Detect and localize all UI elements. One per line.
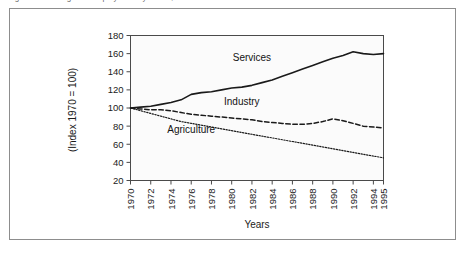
x-axis-tick-label: 1970 xyxy=(125,189,136,210)
y-axis-tick-label: 140 xyxy=(108,66,124,77)
x-axis-tick-label: 1984 xyxy=(267,189,278,210)
x-axis-tick-label: 1995 xyxy=(378,189,389,210)
line-chart: 20406080100120140160180(Index 1970 = 100… xyxy=(0,0,466,253)
figure-container: Figure 2.3 Changes in employment by sect… xyxy=(0,0,466,253)
series-label-industry: Industry xyxy=(224,96,260,107)
series-label-services: Services xyxy=(233,52,271,63)
y-axis-tick-label: 120 xyxy=(108,84,124,95)
x-axis-tick-label: 1976 xyxy=(186,189,197,210)
y-axis-tick-label: 40 xyxy=(113,157,124,168)
y-axis-tick-label: 60 xyxy=(113,139,124,150)
x-axis-tick-label: 1980 xyxy=(226,189,237,210)
y-axis-title: (Index 1970 = 100) xyxy=(67,68,78,152)
y-axis-tick-label: 20 xyxy=(113,175,124,186)
x-axis-tick-label: 1978 xyxy=(206,189,217,210)
y-axis-tick-label: 160 xyxy=(108,48,124,59)
y-axis-tick-label: 80 xyxy=(113,121,124,132)
x-axis-tick-label: 1982 xyxy=(247,189,258,210)
x-axis-title: Years xyxy=(244,219,269,230)
x-axis-tick-label: 1990 xyxy=(328,189,339,210)
x-axis-tick-label: 1988 xyxy=(307,189,318,210)
x-axis-tick-label: 1972 xyxy=(145,189,156,210)
y-axis-tick-label: 180 xyxy=(108,30,124,41)
series-label-agriculture: Agriculture xyxy=(167,124,215,135)
x-axis-tick-label: 1974 xyxy=(166,189,177,210)
x-axis-tick-label: 1986 xyxy=(287,189,298,210)
x-axis-tick-label: 1992 xyxy=(348,189,359,210)
y-axis-tick-label: 100 xyxy=(108,102,124,113)
